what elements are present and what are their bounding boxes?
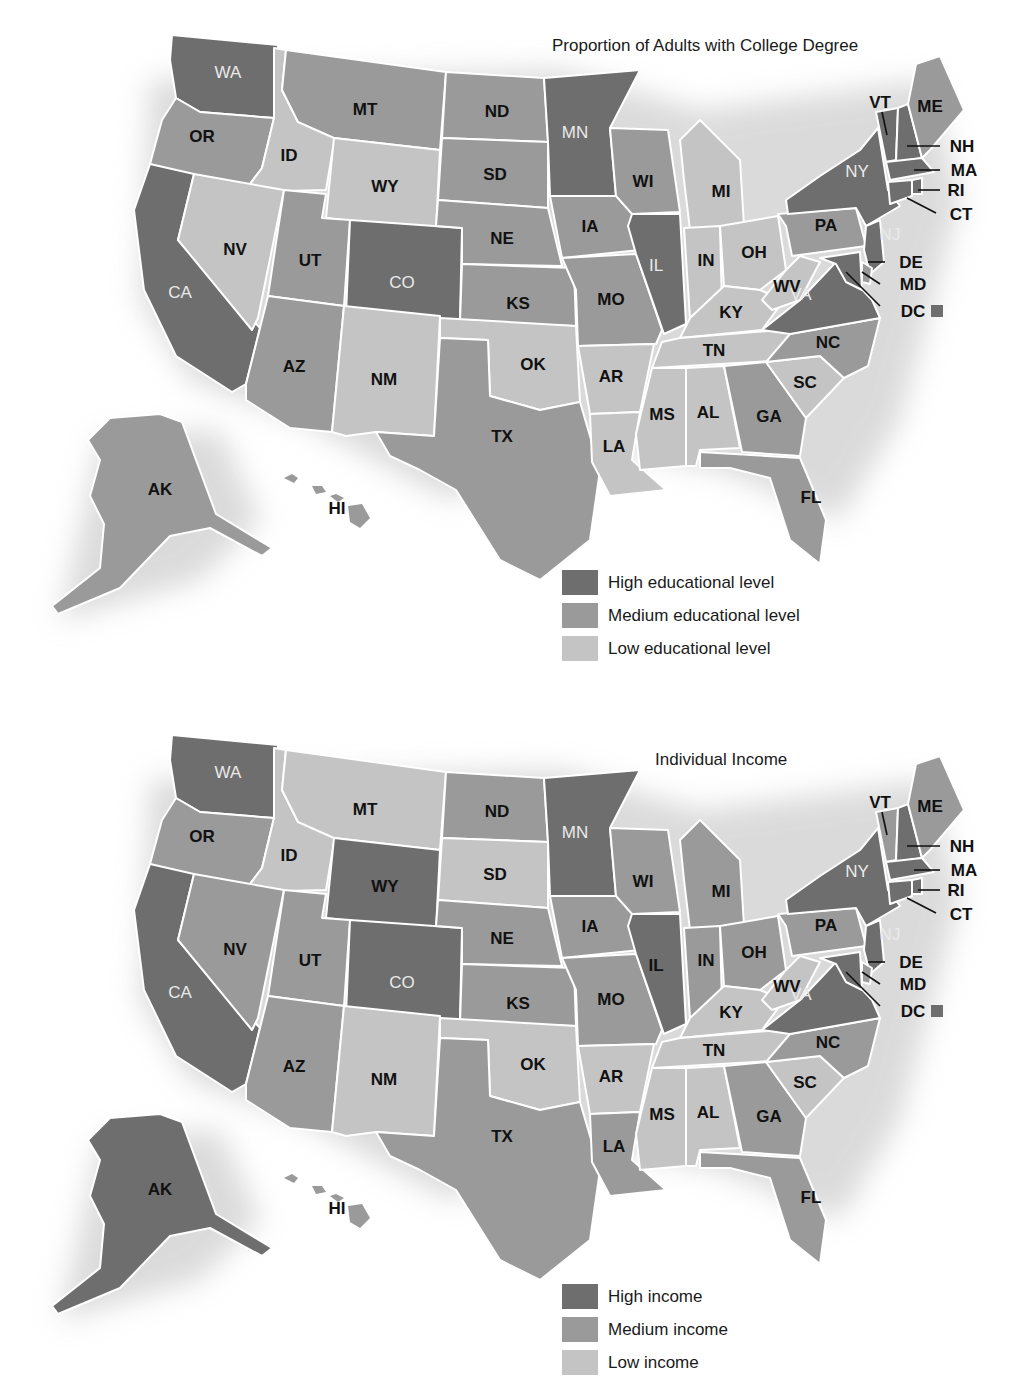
state-label-la: LA — [603, 1137, 626, 1156]
state-label-wy: WY — [371, 177, 399, 196]
state-label-mi: MI — [712, 882, 731, 901]
us-choropleth-map: WA OR CA ID NV MT WY UT CO AZ NM ND SD N… — [0, 0, 1009, 698]
state-label-wi: WI — [633, 872, 654, 891]
state-label-mt: MT — [353, 800, 378, 819]
state-label-ct: CT — [950, 205, 973, 224]
legend-swatch-low — [562, 636, 598, 661]
state-label-nm: NM — [371, 370, 397, 389]
legend-item-low: Low educational level — [562, 632, 800, 665]
state-label-oh: OH — [741, 243, 767, 262]
state-label-ut: UT — [299, 951, 322, 970]
legend-item-low: Low income — [562, 1346, 728, 1379]
state-label-mn: MN — [562, 123, 588, 142]
state-label-nv: NV — [223, 940, 247, 959]
state-label-nd: ND — [485, 102, 510, 121]
state-label-nv: NV — [223, 240, 247, 259]
state-label-ar: AR — [599, 367, 624, 386]
state-hi[interactable] — [284, 1174, 370, 1228]
map-legend: High educational level Medium educationa… — [562, 566, 800, 665]
state-label-ak: AK — [148, 1180, 173, 1199]
legend-swatch-high — [562, 1284, 598, 1309]
state-label-ca: CA — [168, 283, 192, 302]
state-label-md: MD — [900, 275, 926, 294]
state-hi[interactable] — [284, 474, 370, 528]
state-label-co: CO — [389, 273, 415, 292]
state-ri[interactable] — [912, 178, 922, 194]
education-map-panel: WA OR CA ID NV MT WY UT CO AZ NM ND SD N… — [0, 0, 1009, 698]
state-label-nd: ND — [485, 802, 510, 821]
state-label-wv: WV — [773, 977, 801, 996]
state-dc-swatch[interactable] — [931, 305, 943, 317]
map-title: Individual Income — [655, 750, 787, 770]
state-label-ks: KS — [506, 994, 530, 1013]
state-label-ok: OK — [520, 1055, 546, 1074]
state-label-vt: VT — [869, 793, 891, 812]
state-label-az: AZ — [283, 357, 306, 376]
state-label-ny: NY — [845, 862, 869, 881]
state-label-sc: SC — [793, 1073, 817, 1092]
state-co[interactable] — [346, 920, 462, 1020]
state-label-nh: NH — [950, 137, 975, 156]
state-co[interactable] — [346, 220, 462, 320]
state-label-ri: RI — [948, 181, 965, 200]
us-choropleth-map: WA OR CA ID NV MT WY UT CO AZ NM ND SD N… — [0, 700, 1009, 1396]
state-label-ma: MA — [951, 861, 977, 880]
state-wi[interactable] — [610, 128, 680, 214]
state-label-wa: WA — [215, 63, 242, 82]
state-label-mo: MO — [597, 990, 624, 1009]
state-label-sc: SC — [793, 373, 817, 392]
state-label-ia: IA — [582, 217, 599, 236]
state-label-wy: WY — [371, 877, 399, 896]
state-label-ks: KS — [506, 294, 530, 313]
legend-item-medium: Medium educational level — [562, 599, 800, 632]
state-label-tn: TN — [703, 1041, 726, 1060]
legend-label-high: High educational level — [608, 573, 774, 593]
state-label-md: MD — [900, 975, 926, 994]
state-label-ne: NE — [490, 229, 514, 248]
state-label-ia: IA — [582, 917, 599, 936]
state-label-oh: OH — [741, 943, 767, 962]
state-label-in: IN — [698, 951, 715, 970]
state-label-fl: FL — [801, 1188, 822, 1207]
state-label-de: DE — [899, 953, 923, 972]
state-label-co: CO — [389, 973, 415, 992]
state-label-ga: GA — [756, 1107, 782, 1126]
state-label-pa: PA — [815, 216, 837, 235]
state-label-il: IL — [649, 256, 663, 275]
state-label-nj: NJ — [880, 925, 901, 944]
state-dc-swatch[interactable] — [931, 1005, 943, 1017]
state-label-id: ID — [281, 146, 298, 165]
legend-label-medium: Medium income — [608, 1320, 728, 1340]
state-label-ky: KY — [719, 1003, 743, 1022]
state-label-me: ME — [917, 97, 943, 116]
state-label-ak: AK — [148, 480, 173, 499]
income-map-panel: WA OR CA ID NV MT WY UT CO AZ NM ND SD N… — [0, 700, 1009, 1396]
state-label-az: AZ — [283, 1057, 306, 1076]
state-label-tn: TN — [703, 341, 726, 360]
state-label-wv: WV — [773, 277, 801, 296]
state-label-ct: CT — [950, 905, 973, 924]
state-label-il: IL — [648, 956, 663, 975]
state-label-nc: NC — [816, 333, 841, 352]
state-label-ky: KY — [719, 303, 743, 322]
state-label-al: AL — [697, 403, 720, 422]
state-wi[interactable] — [610, 828, 680, 914]
state-label-vt: VT — [869, 93, 891, 112]
state-label-al: AL — [697, 1103, 720, 1122]
legend-label-low: Low educational level — [608, 639, 771, 659]
state-label-id: ID — [281, 846, 298, 865]
map-title: Proportion of Adults with College Degree — [552, 36, 858, 56]
state-label-wa: WA — [215, 763, 242, 782]
state-ri[interactable] — [912, 878, 922, 894]
state-label-sd: SD — [483, 865, 507, 884]
legend-item-high: High educational level — [562, 566, 800, 599]
legend-swatch-medium — [562, 1317, 598, 1342]
state-label-ar: AR — [599, 1067, 624, 1086]
state-label-fl: FL — [801, 488, 822, 507]
state-label-or: OR — [189, 127, 215, 146]
state-label-sd: SD — [483, 165, 507, 184]
state-label-hi: HI — [329, 499, 346, 518]
state-label-ga: GA — [756, 407, 782, 426]
state-label-ny: NY — [845, 162, 869, 181]
state-label-ms: MS — [649, 405, 675, 424]
